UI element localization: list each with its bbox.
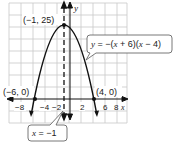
curve-right-arrow-icon xyxy=(94,111,99,118)
y-axis-down-arrow-icon xyxy=(68,114,73,120)
left-root-point xyxy=(33,97,37,101)
symmetry-callout: x = −1 xyxy=(28,111,67,141)
equation-label: y = −(x + 6)(x − 4) xyxy=(90,39,161,49)
x-axis-left-arrow-icon xyxy=(7,97,13,102)
y-axis-label: y xyxy=(73,3,78,13)
right-root-label: (4, 0) xyxy=(96,87,117,97)
vertex-label: (−1, 25) xyxy=(23,15,54,25)
parabola-graph: (−1, 25) (−6, 0) (4, 0) y −8 −4 −2 2 6 8… xyxy=(0,0,175,144)
vertex-point xyxy=(62,23,66,27)
axis-of-symmetry xyxy=(62,2,67,120)
tick-label: −4 xyxy=(40,103,50,112)
x-axis-label: x xyxy=(120,103,125,112)
tick-label: 6 xyxy=(103,103,108,112)
tick-label: 8 xyxy=(114,103,119,112)
tick-label: 2 xyxy=(80,103,85,112)
symmetry-down-arrow-icon xyxy=(62,114,67,120)
tick-label: −8 xyxy=(15,103,25,112)
symmetry-label: x = −1 xyxy=(31,128,57,138)
right-root-point xyxy=(92,97,96,101)
y-axis xyxy=(68,2,73,120)
equation-callout: y = −(x + 6)(x − 4) xyxy=(86,35,172,60)
tick-label: −2 xyxy=(52,103,62,112)
left-root-label: (−6, 0) xyxy=(3,87,29,97)
x-axis xyxy=(7,97,128,102)
